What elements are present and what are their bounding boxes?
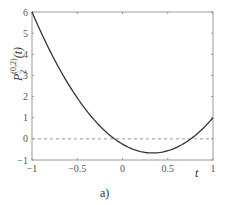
y-tick-label: −1: [17, 155, 28, 166]
x-tick-label: −0.5: [68, 163, 86, 174]
y-tick-label: 0: [23, 133, 28, 144]
data-series-curve: [32, 12, 213, 153]
x-tick-label: −1: [27, 163, 38, 174]
y-tick-label: 6: [23, 7, 28, 18]
y-label-sub: 2: [19, 70, 28, 74]
ticks: −1−0.500.51−10123456: [17, 7, 215, 175]
plot-canvas: −1−0.500.51−10123456 P2(0,2)(t) t a): [0, 0, 231, 205]
x-tick-label: 1: [211, 163, 216, 174]
x-tick-label: 0: [120, 163, 125, 174]
figure-caption: a): [100, 186, 109, 200]
y-tick-label: 2: [23, 91, 28, 102]
x-axis-label: t: [195, 166, 199, 180]
y-label-sup: (0,2): [9, 58, 18, 74]
x-tick-label: 0.5: [162, 163, 175, 174]
y-label-arg: (t): [11, 47, 25, 58]
axes-box: [32, 12, 213, 160]
y-tick-label: 5: [23, 28, 28, 39]
y-tick-label: 1: [23, 112, 28, 123]
